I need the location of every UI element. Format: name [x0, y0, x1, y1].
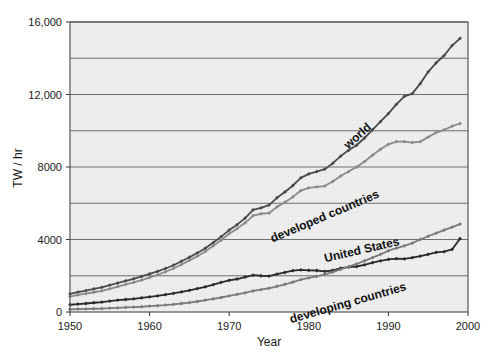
y-axis-title: TW / hr — [11, 148, 25, 187]
y-tick-label: 0 — [56, 306, 62, 318]
y-tick-label: 16,000 — [28, 16, 62, 28]
x-tick-label: 2000 — [456, 320, 480, 332]
x-tick-label: 1960 — [137, 320, 161, 332]
y-tick-label: 4000 — [38, 234, 62, 246]
x-tick-label: 1950 — [58, 320, 82, 332]
y-tick-label: 8000 — [38, 161, 62, 173]
chart-container: 04000800012,00016,000 195019601970198019… — [0, 0, 495, 354]
x-axis-title: Year — [257, 335, 281, 349]
x-tick-label: 1970 — [217, 320, 241, 332]
line-chart: 04000800012,00016,000 195019601970198019… — [0, 0, 495, 354]
y-tick-label: 12,000 — [28, 89, 62, 101]
x-tick-label: 1990 — [376, 320, 400, 332]
